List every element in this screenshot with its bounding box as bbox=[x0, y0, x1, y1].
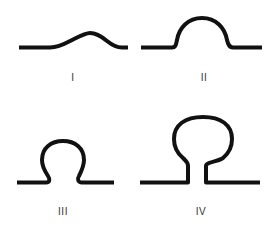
shape-ii-arch bbox=[141, 18, 262, 48]
shape-i-shallow-bump bbox=[19, 33, 128, 48]
panel-label-ii: II bbox=[201, 72, 208, 83]
panel-label-i: I bbox=[71, 72, 74, 83]
diagram-canvas bbox=[0, 0, 275, 230]
shape-iii-omega-loop bbox=[17, 141, 114, 183]
panel-label-iv: IV bbox=[196, 206, 206, 217]
panel-label-iii: III bbox=[58, 206, 68, 217]
shape-iv-balloon-loop bbox=[140, 117, 260, 183]
